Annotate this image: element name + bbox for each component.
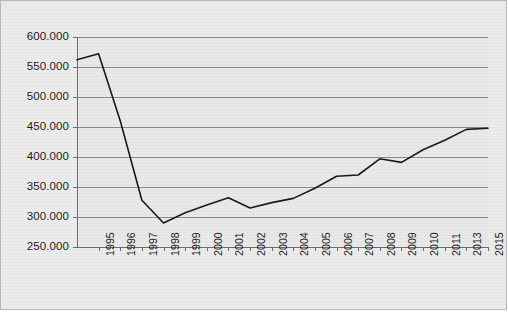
y-axis-label: 250.000 bbox=[5, 240, 69, 252]
x-axis-label: 1998 bbox=[169, 232, 181, 256]
x-axis-label: 2001 bbox=[233, 232, 245, 256]
y-axis-label: 450.000 bbox=[5, 120, 69, 132]
x-axis-label: 2002 bbox=[255, 232, 267, 256]
plot-background bbox=[77, 37, 488, 247]
y-axis-label: 550.000 bbox=[5, 60, 69, 72]
x-axis-label: 1996 bbox=[125, 232, 137, 256]
x-axis-label: 2013 bbox=[471, 232, 483, 256]
x-axis-label: 1995 bbox=[104, 232, 116, 256]
y-axis-label: 350.000 bbox=[5, 180, 69, 192]
x-axis-label: 2015 bbox=[493, 232, 505, 256]
x-axis-label: 2000 bbox=[212, 232, 224, 256]
line-chart: 600.000550.000500.000450.000400.000350.0… bbox=[1, 1, 508, 311]
y-axis-label: 300.000 bbox=[5, 210, 69, 222]
y-axis-label: 500.000 bbox=[5, 90, 69, 102]
x-axis-label: 2008 bbox=[385, 232, 397, 256]
x-axis-label: 2003 bbox=[277, 232, 289, 256]
x-axis-label: 2006 bbox=[342, 232, 354, 256]
x-axis-label: 1999 bbox=[190, 232, 202, 256]
x-axis-label: 2009 bbox=[406, 232, 418, 256]
chart-canvas bbox=[1, 1, 508, 311]
x-axis-label: 2010 bbox=[428, 232, 440, 256]
x-axis-label: 1997 bbox=[147, 232, 159, 256]
y-axis-label: 400.000 bbox=[5, 150, 69, 162]
x-axis-label: 2007 bbox=[363, 232, 375, 256]
x-axis-label: 2005 bbox=[320, 232, 332, 256]
x-axis-label: 2004 bbox=[298, 232, 310, 256]
y-axis-label: 600.000 bbox=[5, 30, 69, 42]
x-axis-label: 2011 bbox=[450, 233, 462, 256]
